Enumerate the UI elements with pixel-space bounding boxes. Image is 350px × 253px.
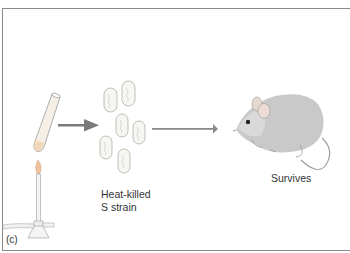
bacteria-cells-icon xyxy=(100,81,145,173)
panel-label: (c) xyxy=(6,234,18,245)
mouse-icon xyxy=(233,94,330,169)
bacteria-label: Heat-killed S strain xyxy=(101,188,151,214)
diagram-scene xyxy=(0,0,350,253)
arrow-right-icon xyxy=(152,124,218,134)
bunsen-burner-icon xyxy=(3,160,54,238)
mouse-label: Survives xyxy=(271,172,311,185)
bacteria-label-line1: Heat-killed xyxy=(101,188,151,201)
bacteria-label-line2: S strain xyxy=(101,201,151,214)
arrow-right-icon xyxy=(58,119,99,132)
test-tube-icon xyxy=(34,92,61,151)
